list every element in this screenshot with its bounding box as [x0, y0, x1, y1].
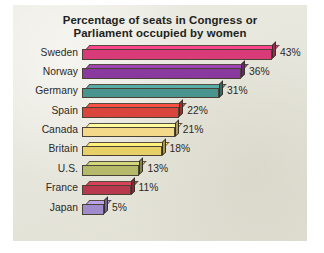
bar-value-label: 5% — [112, 203, 127, 213]
bar-category-label: U.S. — [13, 164, 78, 174]
bar-canada[interactable] — [82, 123, 175, 137]
bar-value-label: 22% — [187, 106, 208, 116]
bar-front-face — [82, 107, 179, 118]
bar-value-label: 13% — [147, 164, 168, 174]
bar-row: Norway36% — [13, 62, 307, 81]
bar-side-face — [272, 41, 276, 59]
bar-category-label: Japan — [13, 203, 78, 213]
bar-norway[interactable] — [82, 64, 241, 78]
bar-front-face — [82, 165, 139, 176]
bar-front-face — [82, 68, 241, 79]
bar-side-face — [131, 177, 135, 195]
bar-front-face — [82, 88, 219, 99]
bar-category-label: Canada — [13, 125, 78, 135]
bar-front-face — [82, 49, 272, 60]
bar-britain[interactable] — [82, 142, 162, 156]
bar-value-label: 43% — [280, 48, 301, 58]
bar-front-face — [82, 204, 104, 215]
chart-title: Percentage of seats in Congress or Parli… — [13, 14, 307, 41]
bar-side-face — [175, 119, 179, 137]
bar-row: Japan5% — [13, 198, 307, 217]
bar-row: Canada21% — [13, 121, 307, 140]
bar-row: Sweden43% — [13, 43, 307, 62]
bar-value-label: 18% — [170, 144, 191, 154]
bar-chart-plot-area: Sweden43%Norway36%Germany31%Spain22%Cana… — [13, 43, 307, 241]
bar-row: U.S.13% — [13, 159, 307, 178]
bar-row: Spain22% — [13, 101, 307, 120]
bar-front-face — [82, 185, 131, 196]
bar-value-label: 31% — [227, 86, 248, 96]
bar-germany[interactable] — [82, 84, 219, 98]
bar-front-face — [82, 146, 162, 157]
bar-row: Germany31% — [13, 82, 307, 101]
bar-category-label: Britain — [13, 144, 78, 154]
bar-side-face — [162, 138, 166, 156]
bar-side-face — [139, 157, 143, 175]
bar-side-face — [219, 80, 223, 98]
bar-side-face — [179, 99, 183, 117]
bar-side-face — [241, 60, 245, 78]
bar-value-label: 21% — [183, 125, 204, 135]
bar-category-label: Sweden — [13, 48, 78, 58]
bar-spain[interactable] — [82, 103, 179, 117]
bar-row: France11% — [13, 179, 307, 198]
bar-row: Britain18% — [13, 140, 307, 159]
bar-category-label: Germany — [13, 86, 78, 96]
bar-side-face — [104, 196, 108, 214]
bar-value-label: 11% — [139, 183, 159, 193]
chart-title-line-2: Parliament occupied by women — [31, 27, 289, 40]
bar-front-face — [82, 127, 175, 138]
bar-value-label: 36% — [249, 67, 270, 77]
chart-title-line-1: Percentage of seats in Congress or — [31, 14, 289, 27]
bar-category-label: Spain — [13, 106, 78, 116]
bar-category-label: Norway — [13, 67, 78, 77]
bar-japan[interactable] — [82, 200, 104, 214]
bar-us[interactable] — [82, 161, 139, 175]
bar-france[interactable] — [82, 181, 131, 195]
bar-sweden[interactable] — [82, 45, 272, 59]
chart-panel: Percentage of seats in Congress or Parli… — [13, 5, 307, 241]
bar-category-label: France — [13, 183, 78, 193]
